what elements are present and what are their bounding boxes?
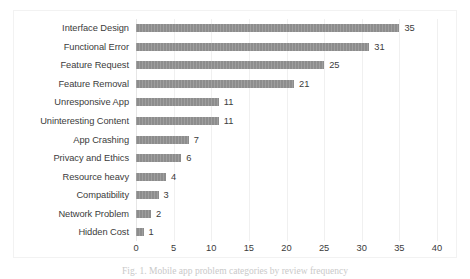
bar[interactable] (136, 80, 294, 88)
x-axis: 0510152025303540 (136, 243, 437, 259)
x-tick-label-40: 40 (432, 243, 442, 253)
bar[interactable] (136, 228, 144, 236)
bar[interactable] (136, 98, 219, 106)
x-tick-label-10: 10 (206, 243, 216, 253)
value-label: 11 (224, 97, 234, 107)
bar[interactable] (136, 154, 181, 162)
plot-area: Interface Design35Functional Error31Feat… (136, 19, 437, 241)
bar-row: Uninteresting Content11 (136, 112, 437, 131)
bar[interactable] (136, 61, 324, 69)
category-label: Unresponsive App (54, 97, 129, 107)
figure-caption: Fig. 1. Mobile app problem categories by… (13, 266, 457, 276)
bar-row: Unresponsive App11 (136, 93, 437, 112)
x-tick-label-5: 5 (171, 243, 176, 253)
bar[interactable] (136, 43, 369, 51)
bar[interactable] (136, 136, 189, 144)
category-label: Hidden Cost (78, 227, 129, 237)
value-label: 25 (329, 60, 339, 70)
value-label: 21 (299, 79, 309, 89)
category-label: Privacy and Ethics (53, 153, 129, 163)
chart-frame: Interface Design35Functional Error31Feat… (13, 10, 457, 258)
value-label: 11 (224, 116, 234, 126)
bar[interactable] (136, 210, 151, 218)
value-label: 35 (404, 23, 414, 33)
x-tick-label-25: 25 (319, 243, 329, 253)
x-tick-label-15: 15 (244, 243, 254, 253)
category-label: Feature Request (60, 60, 129, 70)
category-label: Interface Design (62, 23, 129, 33)
category-label: Compatibility (76, 190, 129, 200)
x-tick-label-20: 20 (281, 243, 291, 253)
bar-row: Privacy and Ethics6 (136, 149, 437, 168)
value-label: 1 (149, 227, 154, 237)
bar[interactable] (136, 117, 219, 125)
bar-row: Hidden Cost1 (136, 223, 437, 242)
value-label: 3 (164, 190, 169, 200)
category-label: Network Problem (58, 209, 129, 219)
bar-row: Interface Design35 (136, 19, 437, 38)
bar-row: Network Problem2 (136, 205, 437, 224)
category-label: Feature Removal (58, 79, 129, 89)
bar[interactable] (136, 173, 166, 181)
value-label: 6 (186, 153, 191, 163)
gridline-40 (437, 19, 438, 241)
category-label: Resource heavy (63, 172, 129, 182)
value-label: 4 (171, 172, 176, 182)
bar-row: Resource heavy4 (136, 167, 437, 186)
x-tick-label-35: 35 (394, 243, 404, 253)
category-label: Uninteresting Content (40, 116, 129, 126)
bar-row: Feature Removal21 (136, 75, 437, 94)
category-label: Functional Error (64, 42, 129, 52)
category-label: App Crashing (73, 135, 129, 145)
bar-row: Feature Request25 (136, 56, 437, 75)
x-tick-label-0: 0 (133, 243, 138, 253)
value-label: 31 (374, 42, 384, 52)
bar[interactable] (136, 24, 399, 32)
bar-row: Functional Error31 (136, 38, 437, 57)
bar[interactable] (136, 191, 159, 199)
value-label: 7 (194, 135, 199, 145)
bar-row: App Crashing7 (136, 130, 437, 149)
value-label: 2 (156, 209, 161, 219)
x-tick-label-30: 30 (357, 243, 367, 253)
bar-row: Compatibility3 (136, 186, 437, 205)
